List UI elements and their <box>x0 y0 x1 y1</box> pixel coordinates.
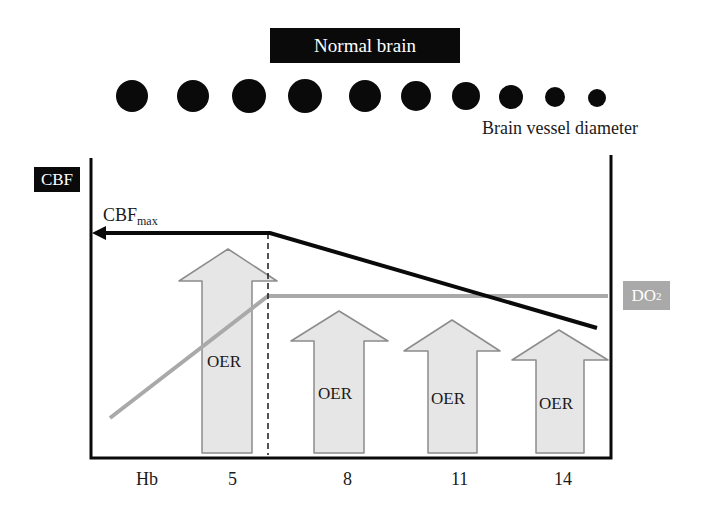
x-tick-5: 5 <box>228 469 237 490</box>
x-tick-8: 8 <box>343 469 352 490</box>
cbf-axis-label: CBF <box>34 167 80 192</box>
diagram-canvas <box>0 0 702 513</box>
do2-main: DO <box>631 286 656 306</box>
x-axis-label: Hb <box>136 469 158 490</box>
vessel-circle <box>116 80 148 112</box>
oer-arrow-14 <box>512 330 608 453</box>
vessel-circles <box>116 79 606 113</box>
cbfmax-main: CBF <box>103 205 137 225</box>
cbfmax-sub: max <box>137 214 158 228</box>
vessel-circle <box>401 81 431 111</box>
cbfmax-label: CBFmax <box>103 205 158 229</box>
oer-label-8: OER <box>318 384 352 404</box>
cbf-line <box>100 233 597 328</box>
vessel-circle <box>588 89 606 107</box>
vessel-circle <box>349 80 381 112</box>
vessel-diameter-label: Brain vessel diameter <box>482 118 638 139</box>
vessel-circle <box>288 79 322 113</box>
oer-label-14: OER <box>539 394 573 414</box>
do2-sub: 2 <box>656 290 662 302</box>
vessel-circle <box>232 79 266 113</box>
vessel-circle <box>452 82 480 110</box>
x-tick-11: 11 <box>451 469 468 490</box>
oer-arrow-11 <box>404 320 500 453</box>
vessel-circle <box>499 85 523 109</box>
do2-label: DO2 <box>623 281 670 310</box>
oer-label-11: OER <box>431 389 465 409</box>
vessel-circle <box>545 87 565 107</box>
x-tick-14: 14 <box>554 469 572 490</box>
oer-label-5: OER <box>207 352 241 372</box>
oer-arrow-8 <box>291 311 388 453</box>
vessel-circle <box>177 80 209 112</box>
